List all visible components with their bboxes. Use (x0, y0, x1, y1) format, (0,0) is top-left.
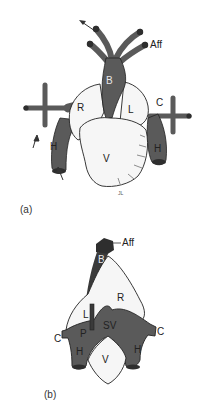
label-h-left: H (50, 141, 57, 152)
label-h-right: H (154, 143, 161, 154)
panel-b: Aff B R L SV P C C H H V (b) (44, 237, 164, 400)
anatomy-diagram: Aff C H H R L (0, 0, 208, 414)
label-l: L (128, 104, 134, 115)
duct-p (90, 304, 94, 330)
label-p: P (80, 328, 87, 339)
label-h-right-b: H (134, 344, 141, 355)
ventricle-v (80, 118, 148, 187)
label-v-b: V (102, 354, 109, 365)
arrow-icon (79, 20, 95, 31)
panel-a: Aff C H H R L (20, 20, 192, 215)
caption-a: (a) (20, 204, 32, 215)
label-sv: SV (103, 320, 117, 331)
vessel-ends (87, 26, 148, 48)
label-r: R (77, 102, 84, 113)
label-v: V (103, 153, 110, 164)
label-l-b: L (83, 309, 89, 320)
label-c-right-b: C (157, 326, 164, 337)
label-aff: Aff (150, 39, 162, 50)
label-aff-b: Aff (122, 237, 134, 248)
hepatic-right (147, 114, 166, 165)
artist-signature: JL (118, 190, 124, 196)
label-b: B (106, 75, 113, 86)
label-h-left-b: H (76, 346, 83, 357)
afferent-branches (90, 29, 145, 62)
label-c-right: C (156, 97, 163, 108)
caption-b: (b) (44, 389, 56, 400)
label-c-left-b: C (54, 333, 61, 344)
label-r-b: R (117, 292, 124, 303)
